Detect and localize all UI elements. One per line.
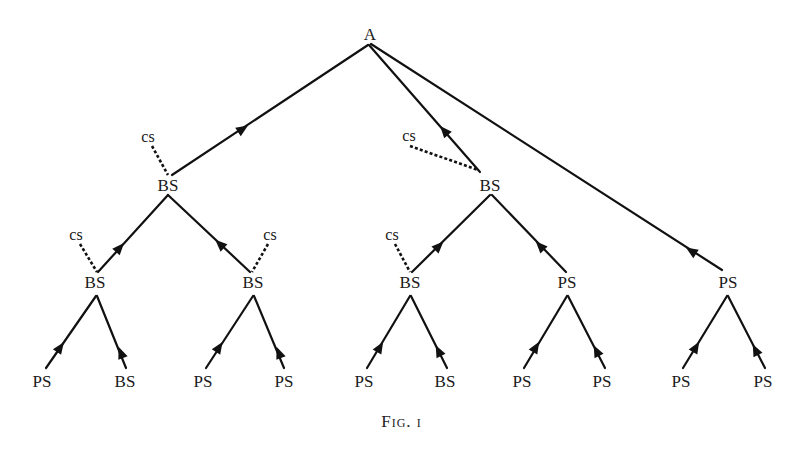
edge-l1left-to-bs-b bbox=[168, 195, 250, 272]
cs-label: cs bbox=[263, 226, 276, 243]
edge-leaf bbox=[524, 296, 567, 368]
arrow-icon bbox=[431, 343, 445, 358]
arrow-icon bbox=[748, 342, 762, 357]
leaf-node: PS bbox=[355, 372, 374, 391]
leaf-node: PS bbox=[593, 372, 612, 391]
edge-root-ps-right bbox=[371, 44, 722, 270]
arrow-icon bbox=[53, 339, 68, 355]
edge-l1mid-to-bs-c bbox=[412, 195, 490, 272]
leaf-node: PS bbox=[513, 372, 532, 391]
node-bs-l1-mid: BS bbox=[480, 176, 501, 195]
edge-l1mid-to-ps-d bbox=[492, 195, 566, 272]
leaf-node: PS bbox=[754, 372, 773, 391]
cs-link-l2-1 bbox=[80, 244, 97, 272]
cs-link-l2-3 bbox=[395, 244, 410, 272]
arrow-icon bbox=[373, 339, 388, 354]
node-bs-l2-2: BS bbox=[243, 273, 264, 292]
arrow-icon bbox=[114, 345, 128, 360]
edge-l1left-to-bs-a bbox=[98, 195, 168, 272]
edge-leaf bbox=[206, 296, 253, 368]
edge-leaf bbox=[367, 296, 410, 368]
node-bs-l1-left: BS bbox=[158, 176, 179, 195]
arrow-icon bbox=[589, 343, 603, 358]
node-root: A bbox=[364, 25, 377, 44]
cs-link-l1-left bbox=[152, 146, 168, 175]
node-bs-l2-1: BS bbox=[85, 273, 106, 292]
leaf-node: PS bbox=[194, 372, 213, 391]
node-ps-l2-4: PS bbox=[558, 273, 577, 292]
leaf-node: BS bbox=[435, 372, 456, 391]
edge-root-bs-left bbox=[172, 45, 368, 175]
arrow-icon bbox=[272, 345, 286, 360]
edge-leaf bbox=[46, 296, 96, 368]
edge-root-bs-mid bbox=[369, 45, 480, 172]
arrow-icon bbox=[529, 339, 544, 354]
tree-diagram: A BS BS cs cs BS BS BS PS PS cs cs cs bbox=[0, 0, 803, 462]
edge-leaf bbox=[568, 296, 605, 368]
cs-label: cs bbox=[69, 226, 82, 243]
edge-leaf bbox=[683, 296, 727, 368]
node-ps-l1-right: PS bbox=[719, 273, 738, 292]
cs-label: cs bbox=[402, 127, 415, 144]
leaf-node: PS bbox=[33, 372, 52, 391]
cs-label: cs bbox=[385, 226, 398, 243]
cs-link-l2-2 bbox=[252, 244, 268, 272]
leaf-node: BS bbox=[115, 372, 136, 391]
edge-leaf bbox=[411, 296, 447, 368]
cs-label: cs bbox=[141, 128, 154, 145]
figure-caption: Fig. i bbox=[0, 412, 803, 432]
leaf-node: PS bbox=[275, 372, 294, 391]
arrow-icon bbox=[689, 339, 704, 354]
node-bs-l2-3: BS bbox=[400, 273, 421, 292]
leaf-node: PS bbox=[672, 372, 691, 391]
edge-leaf bbox=[728, 296, 765, 368]
